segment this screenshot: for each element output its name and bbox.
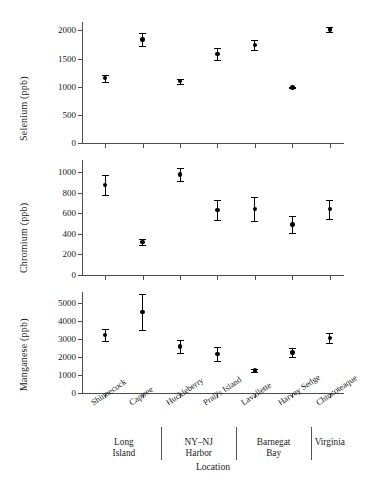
y-tick-label: 1000: [40, 83, 76, 92]
error-bar-cap-lower: [326, 343, 333, 344]
data-marker: [253, 43, 257, 47]
error-bar-cap-lower: [177, 84, 184, 85]
error-bar-cap-lower: [251, 50, 258, 51]
error-bar-cap-upper: [177, 340, 184, 341]
y-tick-mark: [78, 254, 82, 255]
x-tick-mark: [217, 144, 218, 148]
y-tick-mark: [78, 357, 82, 358]
y-tick-mark: [78, 30, 82, 31]
y-tick-label: 3000: [40, 335, 76, 344]
x-tick-mark: [292, 276, 293, 280]
x-tick-mark: [105, 144, 106, 148]
error-bar-cap-lower: [289, 357, 296, 358]
x-tick-mark: [143, 144, 144, 148]
x-axis-title: Location: [82, 461, 344, 472]
y-axis-title: Manganese (ppb): [18, 318, 29, 391]
error-bar-cap-upper: [251, 40, 258, 41]
y-tick-label: 0: [40, 389, 76, 398]
y-tick-mark: [78, 303, 82, 304]
x-tick-mark: [105, 276, 106, 280]
y-tick-label: 600: [40, 209, 76, 218]
group-label-line2: Bay: [266, 448, 281, 458]
data-marker: [328, 336, 332, 340]
y-tick-label: 500: [40, 111, 76, 120]
error-bar-cap-upper: [139, 33, 146, 34]
y-tick-mark: [78, 213, 82, 214]
x-axis-line: [82, 143, 344, 144]
error-bar-cap-upper: [326, 200, 333, 201]
x-tick-label: Captree: [127, 384, 155, 407]
y-tick-label: 800: [40, 189, 76, 198]
group-label-3: Virginia: [288, 437, 370, 448]
error-bar-cap-lower: [214, 220, 221, 221]
y-tick-label: 1000: [40, 371, 76, 380]
error-bar-cap-lower: [214, 361, 221, 362]
y-tick-mark: [78, 321, 82, 322]
y-tick-mark: [78, 193, 82, 194]
error-bar-cap-lower: [177, 353, 184, 354]
error-bar-cap-lower: [139, 245, 146, 246]
error-bar-cap-lower: [102, 341, 109, 342]
error-bar-cap-upper: [214, 48, 221, 49]
data-marker: [140, 310, 144, 314]
x-tick-mark: [292, 144, 293, 148]
y-tick-mark: [78, 87, 82, 88]
data-marker: [140, 240, 144, 244]
error-bar-cap-upper: [289, 216, 296, 217]
data-marker: [253, 368, 257, 372]
x-tick-mark: [180, 276, 181, 280]
x-tick-mark: [255, 144, 256, 148]
y-axis-title: Chromium (ppb): [18, 203, 29, 273]
data-marker: [215, 52, 219, 56]
group-separator-1: [236, 427, 237, 460]
data-marker: [215, 208, 219, 212]
error-bar-cap-upper: [289, 348, 296, 349]
x-axis-line: [82, 275, 344, 276]
error-bar-cap-lower: [102, 82, 109, 83]
data-marker: [103, 183, 107, 187]
y-tick-mark: [78, 339, 82, 340]
x-tick-label: Huckleberry: [164, 375, 205, 407]
error-bar-cap-upper: [139, 294, 146, 295]
group-label-line2: Island: [113, 448, 136, 458]
error-bar-cap-lower: [177, 181, 184, 182]
y-tick-mark: [78, 115, 82, 116]
y-tick-label: 400: [40, 230, 76, 239]
y-tick-label: 1500: [40, 55, 76, 64]
y-tick-mark: [78, 172, 82, 173]
y-tick-label: 0: [40, 271, 76, 280]
error-bar-cap-lower: [214, 60, 221, 61]
data-marker: [178, 172, 182, 176]
x-tick-label: Shinnecock: [89, 377, 128, 408]
error-bar-cap-upper: [102, 175, 109, 176]
y-tick-label: 5000: [40, 299, 76, 308]
data-marker: [328, 27, 332, 31]
group-separator-2: [311, 427, 312, 460]
data-marker: [178, 344, 182, 348]
y-tick-label: 1000: [40, 168, 76, 177]
y-tick-mark: [78, 234, 82, 235]
data-marker: [215, 352, 219, 356]
y-axis-line: [82, 292, 83, 394]
x-tick-mark: [255, 276, 256, 280]
y-tick-label: 2000: [40, 26, 76, 35]
y-tick-mark: [78, 59, 82, 60]
error-bar-cap-upper: [102, 329, 109, 330]
error-bar-cap-upper: [214, 200, 221, 201]
x-tick-mark: [143, 276, 144, 280]
data-marker: [290, 85, 294, 89]
error-bar-cap-lower: [102, 195, 109, 196]
group-separator-0: [161, 427, 162, 460]
x-tick-mark: [330, 276, 331, 280]
y-tick-label: 200: [40, 250, 76, 259]
data-marker: [140, 37, 144, 41]
error-bar-cap-lower: [326, 32, 333, 33]
error-bar-cap-lower: [139, 46, 146, 47]
group-label-0: LongIsland: [82, 437, 166, 458]
y-tick-mark: [78, 393, 82, 394]
y-tick-mark: [78, 375, 82, 376]
y-axis-line: [82, 22, 83, 144]
group-label-line2: Harbor: [186, 448, 212, 458]
error-bar-cap-lower: [251, 221, 258, 222]
data-marker: [103, 333, 107, 337]
